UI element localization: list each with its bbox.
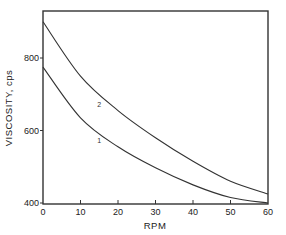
plot-frame xyxy=(43,11,268,204)
x-axis-ticks: 0102030405060 xyxy=(40,200,273,217)
x-axis-title: RPM xyxy=(144,220,167,231)
curve-labels: 21 xyxy=(97,101,101,144)
y-axis-ticks: 400600800 xyxy=(24,53,43,208)
x-tick-label: 60 xyxy=(263,207,273,217)
x-tick-label: 40 xyxy=(188,207,198,217)
x-tick-label: 50 xyxy=(225,207,235,217)
y-tick-label: 800 xyxy=(24,53,39,63)
x-tick-label: 30 xyxy=(150,207,160,217)
viscosity-chart: 0102030405060 400600800 21 RPM VISCOSITY… xyxy=(0,0,286,235)
plot-border xyxy=(43,11,268,204)
curve-label-2: 2 xyxy=(97,101,101,108)
x-tick-label: 0 xyxy=(40,207,45,217)
y-tick-label: 400 xyxy=(24,198,39,208)
x-tick-label: 10 xyxy=(75,207,85,217)
y-axis-title: VISCOSITY, cps xyxy=(3,70,14,147)
x-tick-label: 20 xyxy=(113,207,123,217)
y-tick-label: 600 xyxy=(24,126,39,136)
curve-label-1: 1 xyxy=(97,137,101,144)
data-curves xyxy=(43,22,268,203)
